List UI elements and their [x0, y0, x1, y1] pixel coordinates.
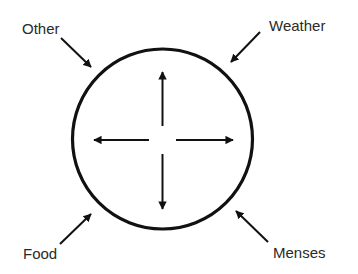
influence-diagram: Other Weather Food Menses — [0, 0, 358, 274]
label-food: Food — [23, 245, 57, 262]
arrow-menses — [236, 211, 268, 242]
label-other: Other — [22, 20, 60, 37]
arrow-other — [61, 38, 91, 67]
arrow-weather — [231, 32, 260, 62]
label-weather: Weather — [269, 17, 325, 34]
arrow-food — [60, 214, 91, 244]
label-menses: Menses — [273, 244, 326, 261]
